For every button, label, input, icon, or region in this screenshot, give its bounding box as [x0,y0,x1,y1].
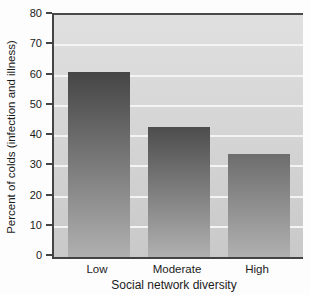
y-tick-label-60: 60 [22,69,42,80]
bar-low [68,72,130,257]
x-category-label-high: High [245,263,269,275]
y-tick-mark-40 [46,133,52,135]
y-tick-label-80: 80 [22,8,42,19]
y-tick-mark-60 [46,73,52,75]
bar-high [228,154,290,257]
y-tick-mark-20 [46,194,52,196]
y-tick-mark-70 [46,42,52,44]
bar-moderate [148,127,210,257]
y-tick-mark-30 [46,163,52,165]
y-axis-title: Percent of colds (infection and illness) [5,40,17,234]
bar-chart-figure: Percent of colds (infection and illness)… [0,0,310,295]
y-tick-label-20: 20 [22,190,42,201]
x-category-label-low: Low [86,263,107,275]
y-tick-label-70: 70 [22,38,42,49]
y-tick-label-40: 40 [22,129,42,140]
x-axis-title: Social network diversity [111,278,236,292]
y-tick-label-50: 50 [22,99,42,110]
y-tick-mark-10 [46,224,52,226]
y-tick-mark-80 [46,12,52,14]
y-tick-label-0: 0 [22,250,42,261]
y-tick-mark-0 [46,254,52,256]
y-tick-mark-50 [46,103,52,105]
gridline-70 [54,44,303,46]
plot-area [52,13,303,259]
x-category-label-moderate: Moderate [153,263,202,275]
y-tick-label-10: 10 [22,220,42,231]
y-tick-label-30: 30 [22,159,42,170]
